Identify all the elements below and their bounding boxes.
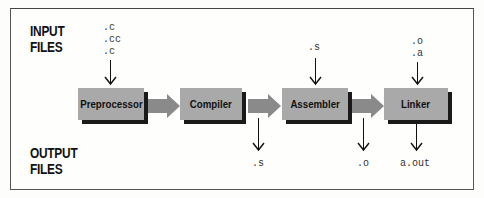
stage-label: Assembler (290, 98, 340, 110)
arrow-down-icon (104, 76, 117, 86)
stage-label: Compiler (190, 98, 232, 110)
input-file-o: .o (411, 36, 423, 48)
stage-label: Linker (401, 98, 430, 110)
input-file-c: .c (103, 22, 115, 34)
stage-assembler: Assembler (282, 88, 348, 120)
output-files-label-line2: FILES (30, 162, 62, 176)
arrow-down-icon (411, 76, 424, 86)
arrow-down-icon (252, 142, 265, 152)
input-files-label-line2: FILES (30, 40, 62, 54)
pipe-arrow-icon (351, 94, 385, 118)
input-file-a: .a (411, 48, 423, 60)
output-files-label-line1: OUTPUT (30, 146, 77, 160)
input-file-s: .s (308, 42, 320, 54)
input-file-c-2: .c (103, 46, 115, 58)
output-file-o: .o (357, 158, 369, 170)
pipe-arrow-icon (248, 94, 282, 118)
arrow-down-icon (309, 76, 322, 86)
stage-compiler: Compiler (180, 88, 242, 120)
output-file-a-out: a.out (400, 158, 430, 170)
input-files-label-line1: INPUT (30, 24, 64, 38)
input-file-cc: .cc (103, 34, 121, 46)
arrow-down-icon (357, 142, 370, 152)
pipe-arrow-icon (147, 94, 181, 118)
arrow-down-icon (410, 142, 423, 152)
stage-preprocessor: Preprocessor (78, 88, 144, 120)
stage-linker: Linker (384, 88, 448, 120)
stage-label: Preprocessor (80, 98, 142, 110)
output-file-s: .s (252, 158, 264, 170)
